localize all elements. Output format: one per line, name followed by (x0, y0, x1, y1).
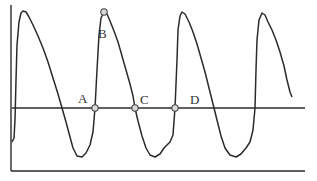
point-c-marker (132, 105, 138, 111)
point-a-marker (92, 105, 98, 111)
point-d-marker (172, 105, 178, 111)
point-label-c: C (140, 93, 149, 106)
wave-curve (12, 11, 292, 157)
waveform-diagram (0, 0, 317, 181)
marked-points (92, 9, 178, 111)
point-label-d: D (190, 93, 199, 106)
point-label-a: A (78, 92, 87, 105)
point-b-marker (101, 9, 107, 15)
point-label-b: B (98, 27, 107, 40)
